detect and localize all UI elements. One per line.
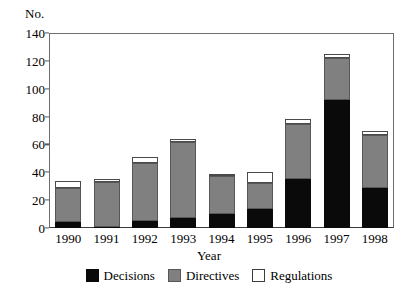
bar-group	[170, 33, 196, 228]
bar-segment-decisions	[55, 222, 81, 228]
x-axis-tick-label: 1992	[132, 232, 158, 245]
bar-segment-directives	[285, 124, 311, 180]
bar-group	[209, 33, 235, 228]
bar-segment-regulations	[209, 174, 235, 176]
bar-segment-directives	[94, 182, 120, 227]
bar-group	[94, 33, 120, 228]
y-axis-unit-caption: No.	[25, 7, 44, 20]
bar-segment-decisions	[285, 179, 311, 228]
bar-segment-decisions	[209, 214, 235, 228]
y-axis-tick-label: 100	[0, 82, 45, 95]
y-axis-tick-label: 20	[0, 194, 45, 207]
bar-segment-directives	[247, 183, 273, 208]
bar-group	[324, 33, 350, 228]
bar-segment-regulations	[285, 119, 311, 123]
bar-group	[55, 33, 81, 228]
bar-segment-decisions	[170, 218, 196, 228]
y-axis-tick-label: 80	[0, 110, 45, 123]
bar-segment-directives	[362, 135, 388, 188]
bar-segment-regulations	[55, 181, 81, 188]
y-axis-tick-label: 140	[0, 27, 45, 40]
y-axis-tick-label: 40	[0, 166, 45, 179]
white-square-swatch	[252, 269, 265, 282]
bar-segment-directives	[55, 188, 81, 223]
bar-segment-regulations	[362, 131, 388, 135]
y-axis-tick-label: 0	[0, 222, 45, 235]
bar-segment-regulations	[94, 179, 120, 182]
x-axis-tick-label: 1993	[170, 232, 196, 245]
x-axis-tick-label: 1995	[247, 232, 273, 245]
legend-label: Regulations	[270, 269, 332, 282]
bar-segment-regulations	[170, 139, 196, 142]
bar-segment-directives	[170, 142, 196, 219]
x-axis-tick-label: 1991	[94, 232, 120, 245]
bar-segment-regulations	[247, 172, 273, 183]
gray-square-swatch	[168, 269, 181, 282]
bar-segment-decisions	[132, 221, 158, 228]
legend-label: Directives	[186, 269, 239, 282]
x-axis-tick-label: 1997	[324, 232, 350, 245]
chart-legend: DecisionsDirectivesRegulations	[0, 269, 418, 282]
bar-segment-regulations	[324, 54, 350, 58]
bar-group	[285, 33, 311, 228]
legend-item-decisions: Decisions	[86, 269, 155, 282]
black-square-swatch	[86, 269, 99, 282]
bar-group	[247, 33, 273, 228]
x-axis-tick-label: 1990	[55, 232, 81, 245]
bar-group	[362, 33, 388, 228]
bar-segment-decisions	[324, 100, 350, 228]
y-axis-tick-label: 120	[0, 54, 45, 67]
bar-segment-directives	[324, 58, 350, 100]
x-axis-tick-label: 1996	[285, 232, 311, 245]
bar-group	[132, 33, 158, 228]
legend-item-regulations: Regulations	[252, 269, 332, 282]
bar-chart: No. 020406080100120140 19901991199219931…	[0, 0, 418, 299]
bar-segment-directives	[132, 163, 158, 222]
x-axis-tick-label: 1994	[209, 232, 235, 245]
bar-segment-decisions	[362, 188, 388, 228]
bar-segment-decisions	[247, 209, 273, 229]
legend-item-directives: Directives	[168, 269, 239, 282]
x-axis-title: Year	[0, 249, 418, 262]
x-axis-tick-label: 1998	[362, 232, 388, 245]
y-axis-tick-label: 60	[0, 138, 45, 151]
legend-label: Decisions	[104, 269, 155, 282]
bar-segment-regulations	[132, 157, 158, 163]
bar-segment-directives	[209, 176, 235, 214]
bars-layer	[49, 33, 394, 228]
